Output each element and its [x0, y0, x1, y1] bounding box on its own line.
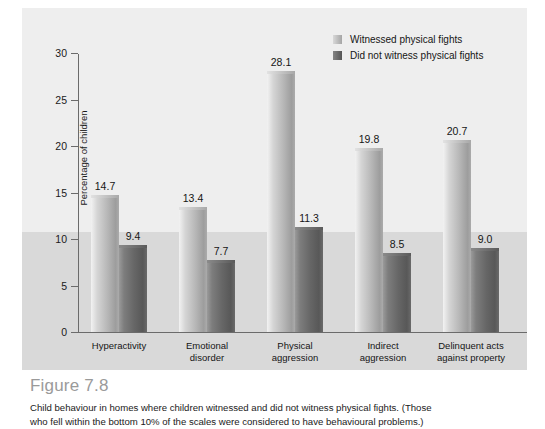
y-axis-tick-label: 5 [61, 280, 67, 292]
bar-group: 14.79.4Hyperactivity [91, 54, 147, 332]
bar-value-label: 9.4 [126, 230, 141, 242]
y-axis-tick: 25 [71, 100, 78, 101]
y-axis-tick: 10 [71, 239, 78, 240]
bar-value-label: 19.8 [359, 133, 379, 145]
bar-value-label: 28.1 [271, 56, 291, 68]
bar-top-cap [91, 195, 119, 198]
figure-caption-line-2: who fell within the bottom 10% of the sc… [30, 415, 520, 429]
bar-did-not-witness[interactable]: 11.3 [295, 227, 323, 332]
y-axis-tick-label: 15 [55, 187, 67, 199]
bar-value-label: 13.4 [183, 192, 203, 204]
bar-witnessed[interactable]: 28.1 [267, 71, 295, 332]
bar-group: 19.88.5Indirect aggression [355, 54, 411, 332]
bar-top-cap [471, 248, 499, 251]
bar-witnessed[interactable]: 20.7 [443, 140, 471, 333]
bar-witnessed[interactable]: 19.8 [355, 148, 383, 332]
bar-witnessed[interactable]: 14.7 [91, 195, 119, 332]
figure-caption: Figure 7.8 Child behaviour in homes wher… [30, 376, 520, 428]
bar-value-label: 11.3 [299, 212, 319, 224]
y-axis-tick: 20 [71, 146, 78, 147]
y-axis-tick: 15 [71, 193, 78, 194]
bar-did-not-witness[interactable]: 9.0 [471, 248, 499, 332]
bar-group: 28.111.3Physical aggression [267, 54, 323, 332]
y-axis-tick-label: 20 [55, 140, 67, 152]
bar-group: 13.47.7Emotional disorder [179, 54, 235, 332]
figure-number: Figure 7.8 [30, 376, 520, 396]
y-axis-tick-label: 30 [55, 47, 67, 59]
bar-value-label: 9.0 [478, 233, 493, 245]
bar-top-cap [207, 260, 235, 263]
bar-value-label: 7.7 [214, 245, 229, 257]
bar-did-not-witness[interactable]: 9.4 [119, 245, 147, 332]
figure-page: Percentage of children Witnessed physica… [0, 0, 545, 429]
legend-swatch-icon-witnessed [333, 35, 342, 44]
legend-item-witnessed: Witnessed physical fights [333, 34, 483, 45]
bar-series-container: 14.79.4Hyperactivity13.47.7Emotional dis… [79, 54, 521, 332]
chart-panel: Percentage of children Witnessed physica… [22, 8, 527, 370]
bar-top-cap [443, 140, 471, 143]
y-axis-tick: 5 [71, 286, 78, 287]
bar-group: 20.79.0Delinquent acts against property [443, 54, 499, 332]
y-axis-tick: 30 [71, 53, 78, 54]
y-axis-tick-label: 25 [55, 94, 67, 106]
legend-label-witnessed: Witnessed physical fights [350, 34, 462, 45]
bar-value-label: 8.5 [390, 238, 405, 250]
figure-caption-line-1: Child behaviour in homes where children … [30, 401, 520, 415]
bar-witnessed[interactable]: 13.4 [179, 207, 207, 332]
bar-top-cap [119, 245, 147, 248]
plot-area: 051015202530 14.79.4Hyperactivity13.47.7… [78, 54, 521, 333]
x-axis-line [78, 332, 527, 333]
bar-value-label: 14.7 [95, 180, 115, 192]
bar-top-cap [295, 227, 323, 230]
y-axis-tick: 0 [71, 332, 78, 333]
bar-did-not-witness[interactable]: 7.7 [207, 260, 235, 332]
bar-did-not-witness[interactable]: 8.5 [383, 253, 411, 332]
x-axis-category-label: Delinquent acts against property [416, 340, 526, 363]
y-axis-tick-label: 0 [61, 326, 67, 338]
y-axis-tick-label: 10 [55, 233, 67, 245]
bar-top-cap [383, 253, 411, 256]
bar-top-cap [267, 71, 295, 74]
bar-top-cap [355, 148, 383, 151]
bar-top-cap [179, 207, 207, 210]
bar-value-label: 20.7 [447, 125, 467, 137]
